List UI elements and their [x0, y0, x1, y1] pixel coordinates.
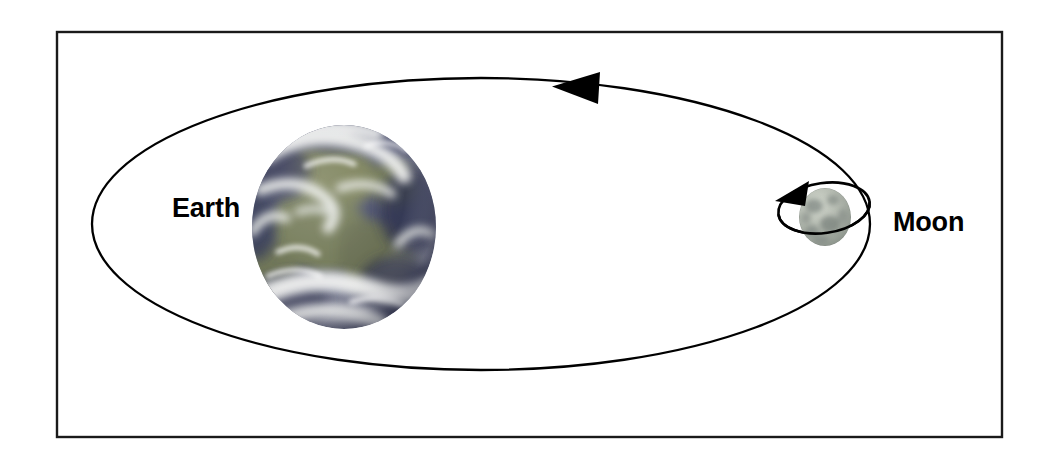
moon-body	[799, 188, 851, 246]
moon-label: Moon	[893, 207, 964, 237]
diagram-canvas: Earth Moon	[0, 0, 1057, 466]
earth-label: Earth	[172, 193, 240, 223]
earth-moon-orbit-diagram: Earth Moon	[0, 0, 1057, 466]
outer-frame	[57, 32, 1002, 437]
